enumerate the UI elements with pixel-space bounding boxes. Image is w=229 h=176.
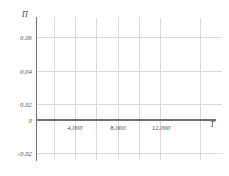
y-tick-label: 0.06 <box>20 34 32 41</box>
plot-area <box>36 18 222 160</box>
y-axis-line <box>36 17 37 161</box>
gridline-vertical <box>54 18 55 160</box>
y-axis-title: Π <box>22 10 28 19</box>
gridline-vertical <box>75 18 76 160</box>
gridline-vertical <box>200 18 201 160</box>
x-tick-label: 4,000 <box>67 124 82 131</box>
gridline-horizontal <box>36 104 222 105</box>
y-tick-label: 0.02 <box>20 101 32 108</box>
y-tick-label: 0 <box>29 117 32 124</box>
x-axis-line <box>36 119 216 121</box>
chart-figure: 0.06 0.04 0.02 0 -0.02 4,000 8,000 12,00… <box>0 0 229 176</box>
x-axis-title: T <box>210 120 214 129</box>
gridline-vertical <box>139 18 140 160</box>
gridline-horizontal <box>36 153 222 154</box>
gridline-vertical <box>118 18 119 160</box>
gridline-horizontal <box>36 37 222 38</box>
x-tick-label: 8,000 <box>110 124 125 131</box>
gridline-horizontal <box>36 71 222 72</box>
y-tick-label: 0.04 <box>20 68 32 75</box>
gridline-vertical <box>96 18 97 160</box>
gridline-vertical <box>160 18 161 160</box>
y-tick-label: -0.02 <box>18 150 32 157</box>
x-tick-label: 12,000 <box>152 124 171 131</box>
